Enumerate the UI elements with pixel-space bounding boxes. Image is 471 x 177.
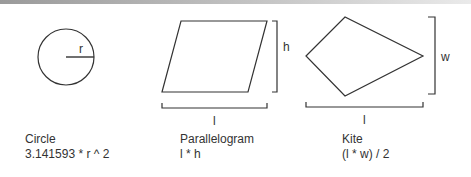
parallelogram-length-bracket	[162, 103, 267, 108]
kite-figure: w l	[306, 17, 450, 127]
parallelogram-height-label: h	[283, 40, 290, 54]
kite-caption: Kite (l * w) / 2	[342, 132, 389, 162]
circle-caption: Circle 3.141593 * r ^ 2	[25, 132, 109, 162]
parallelogram-height-bracket	[272, 21, 277, 92]
parallelogram-figure: h l	[162, 21, 290, 128]
kite-name: Kite	[342, 132, 389, 147]
kite-width-label: w	[440, 50, 450, 64]
circle-formula: 3.141593 * r ^ 2	[25, 147, 109, 162]
kite-shape	[306, 17, 423, 96]
parallelogram-length-label: l	[213, 114, 216, 128]
parallelogram-caption: Parallelogram l * h	[180, 132, 254, 162]
kite-formula: (l * w) / 2	[342, 147, 389, 162]
parallelogram-shape	[162, 21, 267, 92]
kite-length-bracket	[306, 102, 423, 107]
circle-radius-label: r	[79, 42, 83, 56]
circle-figure: r	[38, 29, 94, 85]
kite-length-label: l	[363, 113, 366, 127]
circle-name: Circle	[25, 132, 109, 147]
kite-width-bracket	[428, 17, 435, 94]
parallelogram-name: Parallelogram	[180, 132, 254, 147]
parallelogram-formula: l * h	[180, 147, 254, 162]
